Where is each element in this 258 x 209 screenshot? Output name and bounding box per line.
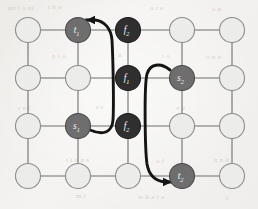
graph-node-plain[interactable] xyxy=(66,164,91,189)
grid-graph-svg: t1f2f1s2s1f2t2 xyxy=(0,0,258,209)
graph-node-f2[interactable]: f2 xyxy=(116,114,141,139)
graph-node-s1[interactable]: s1 xyxy=(66,114,91,139)
node-circle xyxy=(170,164,195,189)
graph-node-plain[interactable] xyxy=(220,18,245,43)
graph-node-plain[interactable] xyxy=(170,18,195,43)
graph-node-plain[interactable] xyxy=(170,114,195,139)
node-circle xyxy=(66,114,91,139)
node-circle xyxy=(116,164,141,189)
node-circle xyxy=(16,164,41,189)
node-circle xyxy=(220,114,245,139)
node-circle xyxy=(66,66,91,91)
node-circle xyxy=(220,18,245,43)
node-circle xyxy=(170,66,195,91)
node-circle xyxy=(116,18,141,43)
node-circle xyxy=(16,66,41,91)
node-circle xyxy=(116,114,141,139)
grid-nodes-group: t1f2f1s2s1f2t2 xyxy=(16,18,245,189)
grid-edges-group xyxy=(28,30,232,176)
graph-node-f2[interactable]: f2 xyxy=(116,18,141,43)
node-circle xyxy=(16,18,41,43)
graph-node-plain[interactable] xyxy=(16,66,41,91)
graph-node-plain[interactable] xyxy=(116,164,141,189)
node-circle xyxy=(66,164,91,189)
graph-node-plain[interactable] xyxy=(220,66,245,91)
graph-node-t1[interactable]: t1 xyxy=(66,18,91,43)
node-circle xyxy=(220,164,245,189)
path-s2-to-t2 xyxy=(145,65,172,182)
graph-node-plain[interactable] xyxy=(16,18,41,43)
graph-node-t2[interactable]: t2 xyxy=(170,164,195,189)
node-circle xyxy=(116,66,141,91)
figure-canvas: un l o utt h ea r eo np l ont oo n er e … xyxy=(0,0,258,209)
node-circle xyxy=(220,66,245,91)
node-circle xyxy=(66,18,91,43)
node-circle xyxy=(16,114,41,139)
node-circle xyxy=(170,18,195,43)
graph-node-plain[interactable] xyxy=(16,114,41,139)
graph-node-f1[interactable]: f1 xyxy=(116,66,141,91)
graph-node-plain[interactable] xyxy=(66,66,91,91)
graph-node-plain[interactable] xyxy=(220,164,245,189)
graph-node-plain[interactable] xyxy=(16,164,41,189)
graph-node-s2[interactable]: s2 xyxy=(170,66,195,91)
graph-node-plain[interactable] xyxy=(220,114,245,139)
node-circle xyxy=(170,114,195,139)
